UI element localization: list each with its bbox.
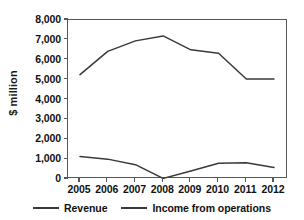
chart-legend: RevenueIncome from operations [0, 199, 304, 217]
y-axis-tick-label: 0 [55, 172, 61, 184]
x-axis-tick-mark [272, 178, 273, 182]
y-axis-tick-label: 2,000 [35, 132, 61, 144]
x-axis-tick-mark [162, 178, 163, 182]
legend-line-icon [33, 207, 59, 209]
legend-label: Income from operations [152, 202, 271, 214]
y-axis-title-text: $ million [7, 70, 19, 116]
plot-area [67, 19, 287, 178]
legend-item: Revenue [33, 202, 107, 214]
x-axis-tick-label: 2007 [123, 183, 146, 195]
x-axis-tick-label: 2005 [68, 183, 91, 195]
x-axis-tick-label: 2011 [234, 183, 256, 195]
y-axis-tick-label: 3,000 [35, 112, 61, 124]
x-axis-tick-mark [189, 178, 190, 182]
legend-label: Revenue [64, 202, 107, 214]
x-axis-tick-label: 2012 [262, 183, 285, 195]
series-lines [68, 20, 288, 179]
series-line [80, 36, 274, 79]
x-axis-tick-mark [106, 178, 107, 182]
line-chart-figure: $ million 01,0002,0003,0004,0005,0006,00… [0, 0, 304, 220]
y-axis-tick-label: 6,000 [35, 53, 61, 65]
y-axis-tick-label: 4,000 [35, 93, 61, 105]
x-axis-tick-label: 2006 [95, 183, 118, 195]
x-axis-tick-mark [134, 178, 135, 182]
x-axis-tick-label: 2010 [206, 183, 229, 195]
x-axis-tick-mark [245, 178, 246, 182]
x-axis-tick-label: 2009 [178, 183, 201, 195]
y-axis-tick-label: 8,000 [35, 13, 61, 25]
y-axis-tick-label: 7,000 [35, 33, 61, 45]
y-axis-tick-label: 5,000 [35, 73, 61, 85]
legend-line-icon [121, 207, 147, 209]
x-axis-tick-label: 2008 [151, 183, 174, 195]
x-axis-tick-mark [217, 178, 218, 182]
legend-item: Income from operations [121, 202, 271, 214]
x-axis-tick-mark [78, 178, 79, 182]
x-axis-tick-labels: 20052006200720082009201020112012 [67, 183, 287, 199]
y-axis-tick-labels: 01,0002,0003,0004,0005,0006,0007,0008,00… [20, 0, 64, 186]
series-line [80, 157, 274, 179]
y-axis-tick-label: 1,000 [35, 152, 61, 164]
